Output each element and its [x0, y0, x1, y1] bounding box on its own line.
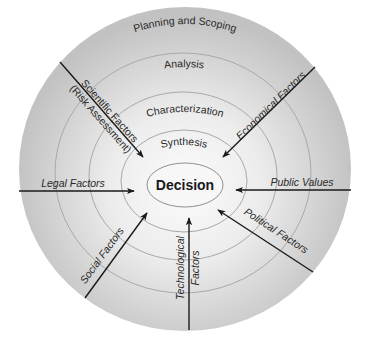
- label-legal: Legal Factors: [41, 177, 105, 189]
- diagram-canvas: Planning and Scoping Analysis Characteri…: [0, 0, 369, 344]
- label-public-values: Public Values: [270, 176, 334, 188]
- svg-text:Technological: Technological: [174, 235, 186, 299]
- decision-label: Decision: [156, 177, 214, 193]
- svg-text:Factors: Factors: [189, 250, 201, 286]
- decision-diagram: Planning and Scoping Analysis Characteri…: [0, 0, 369, 344]
- ring-label-analysis: Analysis: [163, 57, 205, 71]
